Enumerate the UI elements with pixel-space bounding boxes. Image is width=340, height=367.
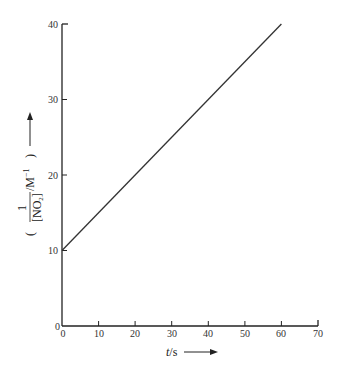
svg-text:/M−1: /M−1: [22, 168, 37, 191]
svg-text:1: 1: [15, 205, 29, 211]
y-tick-labels: 0 10 20 30 40: [48, 19, 60, 332]
y-axis-label: ( 1 [NO2] /M−1 ): [15, 112, 45, 236]
svg-text:20: 20: [130, 328, 140, 339]
svg-text:70: 70: [313, 328, 323, 339]
svg-text:10: 10: [48, 245, 58, 256]
svg-text:50: 50: [240, 328, 250, 339]
svg-text:0: 0: [55, 321, 60, 332]
right-paren: ): [23, 154, 37, 158]
svg-text:[NO2]: [NO2]: [30, 193, 45, 222]
x-tick-labels: 0 10 20 30 40 50 60 70: [61, 328, 324, 339]
svg-text:60: 60: [276, 328, 286, 339]
series-line: [62, 24, 281, 251]
svg-text:0: 0: [61, 328, 66, 339]
svg-text:40: 40: [48, 19, 58, 30]
y-ticks: [62, 100, 67, 251]
svg-text:t/s: t/s: [166, 345, 178, 359]
x-axis-label: t/s: [166, 345, 218, 359]
chart: 0 10 20 30 40 50 60 70 0 10 20 30 40 t/s…: [0, 0, 340, 367]
x-ticks: [99, 321, 282, 326]
svg-text:10: 10: [94, 328, 104, 339]
left-paren: (: [23, 232, 37, 236]
svg-text:30: 30: [48, 94, 58, 105]
svg-text:30: 30: [167, 328, 177, 339]
svg-text:40: 40: [203, 328, 213, 339]
svg-text:20: 20: [48, 170, 58, 181]
